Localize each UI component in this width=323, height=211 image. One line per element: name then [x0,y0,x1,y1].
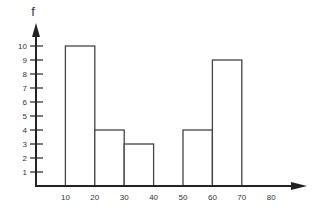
x-tick-label: 20 [90,193,99,202]
y-tick-label: 7 [23,84,28,93]
x-tick-label: 80 [267,193,276,202]
y-axis-label: f [31,4,35,19]
y-tick-label: 8 [23,70,28,79]
bars-group [65,46,241,186]
x-axis-arrow-icon [291,182,307,190]
y-axis-arrow-icon [32,23,40,37]
x-tick-label: 40 [149,193,158,202]
y-tick-label: 4 [23,126,28,135]
histogram-bar [212,60,241,186]
y-tick-label: 6 [23,98,28,107]
histogram-bar [183,130,212,186]
x-tick-label: 70 [237,193,246,202]
y-tick-label: 9 [23,56,28,65]
histogram-chart: 12345678910 1020304050607080 f [0,0,323,211]
y-tick-label: 5 [23,112,28,121]
y-tick-label: 1 [23,168,28,177]
x-tick-label: 50 [179,193,188,202]
y-tick-label: 2 [23,154,28,163]
histogram-bar [124,144,153,186]
y-tick-label: 3 [23,140,28,149]
y-ticks-group: 12345678910 [18,42,43,177]
x-tick-label: 60 [208,193,217,202]
histogram-bar [65,46,94,186]
x-tick-label: 10 [61,193,70,202]
x-ticks-group: 1020304050607080 [61,193,276,202]
histogram-bar [95,130,124,186]
x-tick-label: 30 [120,193,129,202]
y-tick-label: 10 [18,42,27,51]
